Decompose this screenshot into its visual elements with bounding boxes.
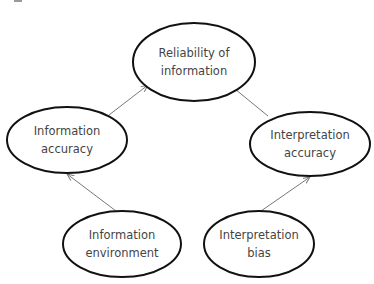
node-label: information xyxy=(161,64,227,78)
node-label: accuracy xyxy=(284,146,336,160)
node-label: accuracy xyxy=(41,142,93,156)
node-label: environment xyxy=(85,246,159,260)
node-info_accuracy: Informationaccuracy xyxy=(7,107,127,173)
node-interp_bias: Interpretationbias xyxy=(204,211,314,277)
arrow-info_accuracy-to-reliability xyxy=(109,85,148,115)
nodes-layer: Reliability ofinformationInformationaccu… xyxy=(7,23,370,277)
cropped-figure-label-mark xyxy=(14,0,22,2)
node-label: bias xyxy=(247,246,271,260)
arrow-info_environment-to-info_accuracy xyxy=(67,174,116,211)
node-label: Information xyxy=(34,124,101,138)
node-ellipse xyxy=(63,211,181,277)
arrow-interp_bias-to-interp_accuracy xyxy=(261,177,310,211)
node-label: Interpretation xyxy=(219,228,298,242)
node-ellipse xyxy=(133,23,255,101)
node-info_environment: Informationenvironment xyxy=(63,211,181,277)
node-ellipse xyxy=(204,211,314,277)
node-label: Interpretation xyxy=(270,128,349,142)
node-reliability: Reliability ofinformation xyxy=(133,23,255,101)
node-label: Information xyxy=(89,228,156,242)
node-label: Reliability of xyxy=(159,46,231,60)
node-ellipse xyxy=(7,107,127,173)
node-interp_accuracy: Interpretationaccuracy xyxy=(250,112,370,176)
node-ellipse xyxy=(250,112,370,176)
diagram-canvas: Reliability ofinformationInformationaccu… xyxy=(0,0,374,284)
